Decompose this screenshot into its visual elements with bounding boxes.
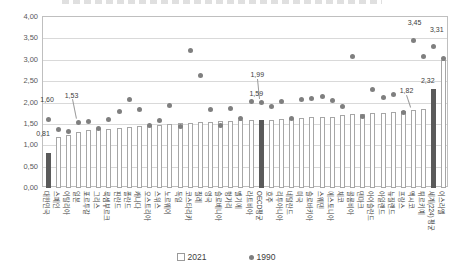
dot-독일 xyxy=(178,124,183,129)
gridline xyxy=(43,167,447,168)
bar-프랑스 xyxy=(401,111,406,188)
dot-노르웨이 xyxy=(167,103,172,108)
dot-슬로바키아 xyxy=(309,96,314,101)
bar-콜롬비아 xyxy=(350,114,355,188)
dot-체코 xyxy=(340,104,345,109)
x-label-일본: 일본 xyxy=(72,191,81,203)
x-label-핀란드: 핀란드 xyxy=(113,191,122,209)
bar-슬로바키아 xyxy=(309,117,314,188)
x-label-이스라엘: 이스라엘 xyxy=(437,191,446,215)
x-label-코스타리카: 코스타리카 xyxy=(184,191,193,221)
x-label-독일: 독일 xyxy=(174,191,183,203)
gridline xyxy=(43,81,447,82)
x-label-룩셈부르크: 룩셈부르크 xyxy=(102,191,111,221)
bar-세계(224) 평균 xyxy=(431,89,436,188)
x-label-리투아니아: 리투아니아 xyxy=(275,191,284,221)
data-label-2,32: 2,32 xyxy=(421,76,435,83)
gridline xyxy=(43,124,447,125)
y-tick-label: 4,00 xyxy=(8,12,38,21)
dot-리투아니아 xyxy=(279,99,284,104)
bar-그리스 xyxy=(96,129,101,188)
x-label-헝가리: 헝가리 xyxy=(224,191,233,209)
data-label-1,53: 1,53 xyxy=(65,91,79,98)
x-label-스페인: 스페인 xyxy=(52,191,61,209)
y-tick-label: 3,00 xyxy=(8,55,38,64)
bar-아일랜드 xyxy=(381,113,386,188)
bar-스페인 xyxy=(56,137,61,188)
legend: 2021 1990 xyxy=(0,252,452,262)
x-label-튀르키예: 튀르키예 xyxy=(417,191,426,215)
bar-미국 xyxy=(299,118,304,188)
x-label-스웨덴: 스웨덴 xyxy=(316,191,325,209)
dot-영국 xyxy=(208,107,213,112)
bar-튀르키예 xyxy=(421,109,426,188)
bar-칠레 xyxy=(198,122,203,188)
dot-에스토니아 xyxy=(330,98,335,103)
dot-포르투갈 xyxy=(86,119,91,124)
bar-swatch-icon xyxy=(177,253,185,261)
bar-오스트리아 xyxy=(147,126,152,188)
x-label-OECD평균: OECD평균 xyxy=(255,191,264,221)
bar-폴란드 xyxy=(127,127,132,188)
y-tick-label: 1,00 xyxy=(8,140,38,149)
x-label-대한민국: 대한민국 xyxy=(42,191,51,215)
x-label-콜롬비아: 콜롬비아 xyxy=(346,191,355,215)
dot-헝가리 xyxy=(228,106,233,111)
x-label-뉴질랜드: 뉴질랜드 xyxy=(387,191,396,215)
y-tick-label: 1,50 xyxy=(8,119,38,128)
legend-label-2021: 2021 xyxy=(188,252,207,262)
bar-스웨덴 xyxy=(320,117,325,188)
legend-item-1990: 1990 xyxy=(249,252,276,262)
y-tick-label: 2,50 xyxy=(8,76,38,85)
bar-이스라엘 xyxy=(441,60,446,188)
data-label-0,81: 0,81 xyxy=(36,130,50,137)
dot-swatch-icon xyxy=(249,255,254,260)
dot-칠레 xyxy=(198,73,203,78)
x-label-폴란드: 폴란드 xyxy=(123,191,132,209)
bar-룩셈부르크 xyxy=(106,129,111,188)
legend-label-1990: 1990 xyxy=(257,252,276,262)
bar-스위스 xyxy=(157,125,162,188)
x-label-벨기에: 벨기에 xyxy=(234,191,243,209)
bar-포르투갈 xyxy=(86,130,91,188)
bar-슬로베니아 xyxy=(218,121,223,188)
x-label-체코: 체코 xyxy=(336,191,345,203)
data-label-1,82: 1,82 xyxy=(400,87,414,94)
y-tick-label: 0,00 xyxy=(8,183,38,192)
cropped-title-remnant xyxy=(62,0,382,4)
bar-캐나다 xyxy=(137,126,142,188)
bar-OECD평균 xyxy=(259,120,264,188)
x-label-노르웨이: 노르웨이 xyxy=(163,191,172,215)
bar-대한민국 xyxy=(46,153,51,188)
bar-라트비아 xyxy=(249,120,254,188)
x-label-오스트리아: 오스트리아 xyxy=(143,191,152,221)
x-label-슬로바키아: 슬로바키아 xyxy=(305,191,314,221)
y-tick-label: 2,00 xyxy=(8,98,38,107)
fertility-rate-chart: 4,003,503,002,502,001,501,000,500,00 0,8… xyxy=(0,0,452,273)
dot-뉴질랜드 xyxy=(391,92,396,97)
x-label-멕시코: 멕시코 xyxy=(407,191,416,209)
dot-아일랜드 xyxy=(381,95,386,100)
data-label-1,60: 1,60 xyxy=(40,95,54,102)
dot-핀란드 xyxy=(117,109,122,114)
dot-프랑스 xyxy=(401,110,406,115)
bar-체코 xyxy=(340,115,345,188)
gridline xyxy=(43,103,447,104)
bar-벨기에 xyxy=(238,120,243,188)
bar-뉴질랜드 xyxy=(391,112,396,188)
dot-코스타리카 xyxy=(188,48,193,53)
x-label-네덜란드: 네덜란드 xyxy=(285,191,294,215)
x-label-라트비아: 라트비아 xyxy=(245,191,254,215)
dot-대한민국 xyxy=(46,117,51,122)
data-label-3,31: 3,31 xyxy=(430,26,444,33)
bar-네덜란드 xyxy=(289,119,294,188)
dot-OECD평균 xyxy=(259,100,264,105)
dot-스웨덴 xyxy=(320,94,325,99)
gridline xyxy=(43,145,447,146)
x-label-호주: 호주 xyxy=(265,191,274,203)
gridline xyxy=(43,60,447,61)
dot-아이슬란드 xyxy=(370,87,375,92)
dot-튀르키예 xyxy=(421,54,426,59)
data-label-1,99: 1,99 xyxy=(250,70,264,77)
x-label-캐나다: 캐나다 xyxy=(133,191,142,209)
